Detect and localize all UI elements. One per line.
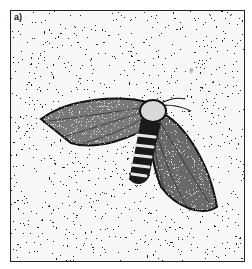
panel-label: a) (12, 12, 24, 23)
bark-texture-illustration (11, 11, 245, 262)
illustration-frame (10, 10, 245, 262)
